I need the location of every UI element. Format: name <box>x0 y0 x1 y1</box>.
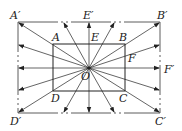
label-f: F <box>127 52 136 65</box>
label-c: C <box>119 92 128 105</box>
label-d-prime: D′ <box>9 115 22 128</box>
label-o: O <box>81 70 90 83</box>
label-f-prime: F′ <box>163 63 175 76</box>
label-d: D <box>50 92 60 105</box>
label-e-prime: E′ <box>82 9 94 22</box>
similarity-diagram: A′ E′ B′ A E B F F′ O D C D′ C′ <box>0 0 182 131</box>
label-a: A <box>51 31 60 44</box>
label-b-prime: B′ <box>156 9 168 22</box>
label-b: B <box>118 31 127 44</box>
label-c-prime: C′ <box>155 115 166 128</box>
label-e: E <box>90 31 99 44</box>
label-a-prime: A′ <box>9 9 21 22</box>
diagram-canvas: A′ E′ B′ A E B F F′ O D C D′ C′ <box>0 0 182 131</box>
